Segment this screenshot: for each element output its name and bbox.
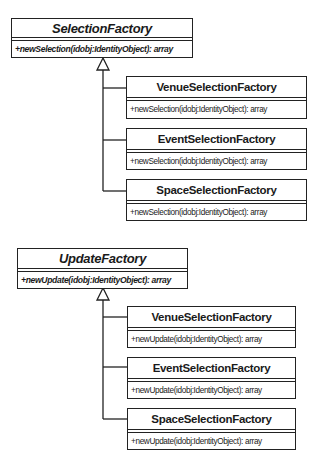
hollow-triangle-icon — [97, 58, 109, 70]
class-venue-selection-factory: VenueSelectionFactory +newUpdate(idobj:I… — [127, 306, 296, 348]
class-event-selection-factory: EventSelectionFactory +newUpdate(idobj:I… — [127, 357, 296, 399]
class-name: UpdateFactory — [18, 249, 187, 269]
class-name: SpaceSelectionFactory — [128, 409, 295, 430]
class-operation: +newUpdate(idobj:IdentityObject): array — [128, 382, 295, 398]
class-operation: +newUpdate(idobj:IdentityObject): array — [128, 331, 295, 347]
class-space-selection-factory: SpaceSelectionFactory +newSelection(idob… — [126, 179, 307, 221]
class-event-selection-factory: EventSelectionFactory +newSelection(idob… — [126, 128, 307, 170]
class-name: VenueSelectionFactory — [127, 77, 306, 98]
class-selection-factory: SelectionFactory +newSelection(idobj:Ide… — [11, 18, 193, 58]
class-operation: +newSelection(idobj:IdentityObject): arr… — [127, 204, 306, 220]
class-operation: +newSelection(idobj:IdentityObject): arr… — [12, 41, 192, 57]
class-name: EventSelectionFactory — [128, 358, 295, 379]
hollow-triangle-icon — [97, 288, 109, 300]
class-operation: +newSelection(idobj:IdentityObject): arr… — [127, 153, 306, 169]
class-operation: +newSelection(idobj:IdentityObject): arr… — [127, 101, 306, 118]
class-name: EventSelectionFactory — [127, 129, 306, 150]
class-operation: +newUpdate(idobj:IdentityObject): array — [18, 272, 187, 288]
class-name: SpaceSelectionFactory — [127, 180, 306, 201]
generalization-arrow-update — [97, 288, 127, 419]
class-name: VenueSelectionFactory — [128, 307, 295, 328]
class-name: SelectionFactory — [12, 19, 192, 38]
generalization-arrow-selection — [97, 58, 126, 191]
class-update-factory: UpdateFactory +newUpdate(idobj:IdentityO… — [17, 248, 188, 289]
class-space-selection-factory: SpaceSelectionFactory +newUpdate(idobj:I… — [127, 408, 296, 450]
class-venue-selection-factory: VenueSelectionFactory +newSelection(idob… — [126, 76, 307, 119]
class-operation: +newUpdate(idobj:IdentityObject): array — [128, 433, 295, 449]
